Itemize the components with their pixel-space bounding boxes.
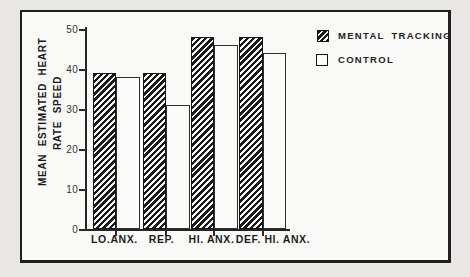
bar-mental-tracking-rep xyxy=(143,73,167,229)
y-tick-label-40: 40 xyxy=(56,64,78,76)
y-axis-title-line1: MEAN ESTIMATED HEART xyxy=(35,40,50,186)
bar-mental-tracking-hi-anx xyxy=(191,37,215,229)
x-label-lo-anx: LO.ANX. xyxy=(91,233,138,245)
y-tick-label-20: 20 xyxy=(56,144,78,156)
bar-control-hi-anx xyxy=(214,45,238,229)
y-tick-label-0: 0 xyxy=(56,224,78,236)
bar-control-def-hi-anx xyxy=(263,53,287,229)
legend-swatch-mental-tracking xyxy=(317,30,329,42)
legend-swatch-control xyxy=(316,54,328,66)
legend-label-mental-tracking: MENTAL TRACKING xyxy=(338,30,452,42)
y-tick-label-10: 10 xyxy=(56,184,78,196)
y-axis-line xyxy=(85,27,87,231)
y-tick-label-50: 50 xyxy=(56,24,78,36)
y-tick-20 xyxy=(79,149,86,151)
y-tick-30 xyxy=(79,109,86,111)
x-label-def-hi-anx: DEF. HI. ANX. xyxy=(236,233,311,245)
scanned-figure: { "chart_data": { "type": "bar", "title"… xyxy=(0,0,470,277)
bar-control-rep xyxy=(166,105,190,229)
y-tick-40 xyxy=(79,69,86,71)
x-label-rep: REP. xyxy=(149,233,175,245)
bar-control-lo-anx xyxy=(116,77,140,229)
y-tick-0 xyxy=(79,229,86,231)
figure-frame: MEAN ESTIMATED HEART RATE SPEED MENTAL T… xyxy=(20,10,451,263)
y-tick-50 xyxy=(79,29,86,31)
y-tick-label-30: 30 xyxy=(56,104,78,116)
bar-mental-tracking-def-hi-anx xyxy=(239,37,263,229)
y-tick-10 xyxy=(79,189,86,191)
legend-label-control: CONTROL xyxy=(338,54,394,66)
bar-mental-tracking-lo-anx xyxy=(93,73,117,229)
x-label-hi-anx: HI. ANX. xyxy=(189,233,235,245)
